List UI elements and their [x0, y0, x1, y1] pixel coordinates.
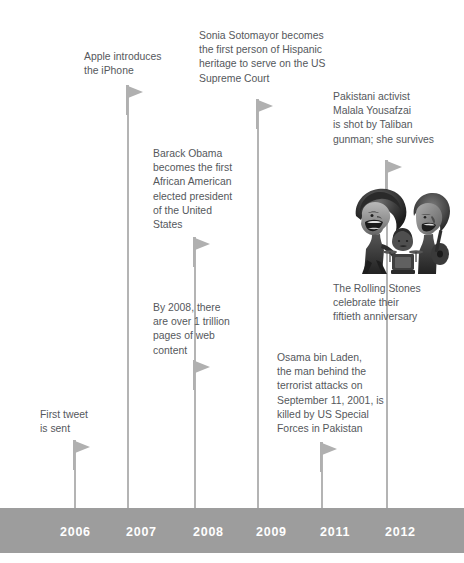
- flag-marker-apple-iphone: [126, 85, 148, 115]
- year-label-2008: 2008: [193, 525, 224, 539]
- flag-pennant-icon: [387, 161, 402, 173]
- flag-marker-first-tweet: [73, 440, 95, 470]
- timeline-stem-apple-iphone: [127, 85, 129, 508]
- event-note-malala-yousafzai: Pakistani activist Malala Yousafzai is s…: [333, 90, 434, 147]
- event-note-barack-obama: Barack Obama becomes the first African A…: [153, 147, 232, 232]
- flag-marker-osama-bin-laden: [320, 442, 342, 472]
- event-note-rolling-stones: The Rolling Stones celebrate their fifti…: [333, 282, 421, 325]
- year-label-2009: 2009: [256, 525, 287, 539]
- event-note-apple-iphone: Apple introduces the iPhone: [84, 50, 161, 78]
- year-label-2006: 2006: [60, 525, 91, 539]
- year-label-2007: 2007: [126, 525, 157, 539]
- flag-pennant-icon: [195, 361, 210, 373]
- rolling-stones-caricature-image: [352, 186, 452, 274]
- flag-pennant-icon: [195, 238, 210, 250]
- year-label-2012: 2012: [385, 525, 416, 539]
- event-note-osama-bin-laden: Osama bin Laden, the man behind the terr…: [277, 351, 384, 436]
- flag-pennant-icon: [128, 86, 143, 98]
- timeline-infographic: First tweet is sentApple introduces the …: [0, 0, 464, 563]
- flag-marker-web-pages-trillion: [193, 360, 215, 390]
- flag-pennant-icon: [322, 443, 337, 455]
- year-label-2011: 2011: [320, 525, 350, 539]
- timeline-stem-sonia-sotomayor: [257, 99, 259, 508]
- flag-marker-sonia-sotomayor: [256, 99, 278, 129]
- flag-pennant-icon: [258, 100, 273, 112]
- event-note-sonia-sotomayor: Sonia Sotomayor becomes the first person…: [199, 29, 326, 86]
- event-note-web-pages-trillion: By 2008, there are over 1 trillion pages…: [153, 301, 230, 358]
- event-note-first-tweet: First tweet is sent: [40, 408, 88, 436]
- flag-pennant-icon: [75, 441, 90, 453]
- flag-marker-barack-obama: [193, 237, 215, 267]
